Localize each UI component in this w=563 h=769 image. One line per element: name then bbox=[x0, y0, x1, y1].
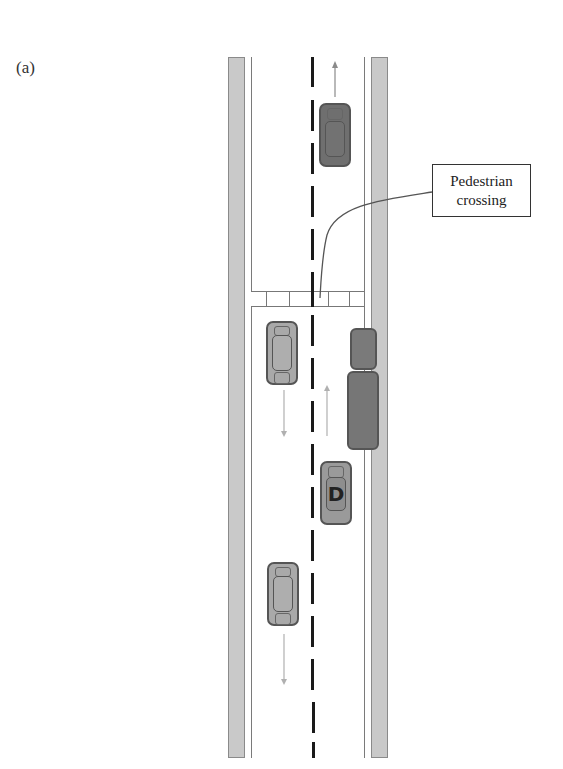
vehicle-oncoming-car bbox=[319, 103, 351, 167]
arrow-down-icon bbox=[281, 634, 287, 685]
vehicle-left-car-1 bbox=[266, 321, 298, 385]
vehicle-left-car-2 bbox=[267, 562, 299, 626]
callout-line-1: Pedestrian bbox=[450, 172, 512, 191]
driver-label: D bbox=[327, 482, 345, 506]
arrow-up-icon bbox=[332, 61, 338, 97]
vehicle-driver-car: D bbox=[320, 461, 352, 525]
arrow-down-icon bbox=[281, 390, 287, 437]
callout-leader-line bbox=[320, 192, 432, 298]
truck-trailer bbox=[347, 371, 379, 450]
callout-line-2: crossing bbox=[457, 191, 507, 210]
arrow-up-icon bbox=[324, 385, 330, 436]
pedestrian-crossing-callout: Pedestrian crossing bbox=[432, 164, 531, 217]
truck-cab bbox=[350, 328, 377, 370]
